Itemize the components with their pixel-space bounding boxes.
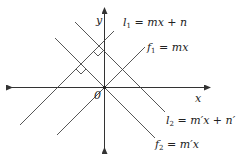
origin-point — [103, 86, 107, 90]
x-axis-label: x — [195, 92, 202, 105]
coordinate-diagram: x y 0 l1 = mx + n f1 = mx l2 = m′x + n′ … — [0, 0, 244, 159]
label-l2: l2 = m′x + n′ — [166, 114, 236, 128]
label-f1: f1 = mx — [146, 41, 189, 55]
y-axis-label: y — [95, 14, 103, 27]
right-angle-mark-l1-l2 — [93, 51, 103, 56]
right-angle-mark-l1-f2 — [76, 69, 86, 74]
line-l1 — [20, 31, 114, 125]
line-f1 — [57, 47, 145, 135]
label-f2: f2 = m′x — [154, 138, 200, 152]
line-l2 — [75, 22, 165, 112]
origin-label: 0 — [94, 89, 101, 102]
label-l1: l1 = mx + n — [123, 16, 187, 30]
